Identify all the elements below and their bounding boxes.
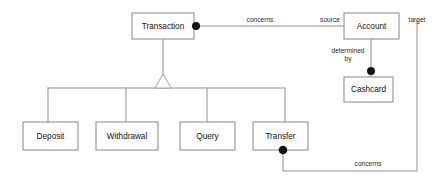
assoc-label-target: target: [409, 16, 426, 24]
class-label-cashcard: Cashcard: [351, 85, 386, 94]
class-box-transaction[interactable]: Transaction: [132, 13, 194, 39]
class-box-query[interactable]: Query: [180, 122, 235, 150]
aggregation-dot-transfer-icon: [279, 146, 288, 155]
generalization-triangle-icon: [155, 74, 171, 88]
class-box-withdrawal[interactable]: Withdrawal: [96, 122, 158, 150]
class-label-transfer: Transfer: [265, 132, 295, 141]
aggregation-dot-cashcard-icon: [367, 67, 375, 75]
assoc-label-determined: determined: [332, 47, 365, 54]
assoc-label-by: by: [345, 55, 353, 63]
class-box-deposit[interactable]: Deposit: [23, 122, 78, 150]
class-box-account[interactable]: Account: [344, 13, 399, 39]
uml-class-diagram: Transaction Account Cashcard Deposit Wit…: [0, 0, 436, 186]
class-label-deposit: Deposit: [37, 132, 65, 141]
assoc-label-concerns-top: concerns: [247, 16, 274, 23]
aggregation-dot-transaction-icon: [192, 22, 200, 30]
class-label-account: Account: [357, 22, 387, 31]
class-label-transaction: Transaction: [142, 22, 185, 31]
class-label-query: Query: [196, 132, 219, 141]
class-box-layer: Transaction Account Cashcard Deposit Wit…: [23, 13, 399, 150]
diagram-svg-canvas: Transaction Account Cashcard Deposit Wit…: [0, 0, 436, 186]
assoc-label-source: source: [320, 16, 340, 23]
assoc-label-concerns-bottom: concerns: [355, 160, 382, 167]
class-box-cashcard[interactable]: Cashcard: [344, 77, 393, 102]
class-label-withdrawal: Withdrawal: [107, 132, 148, 141]
class-box-transfer[interactable]: Transfer: [253, 122, 308, 150]
